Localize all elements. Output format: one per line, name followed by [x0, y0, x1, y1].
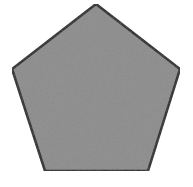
pentagon-diagram	[0, 0, 193, 187]
diagram-canvas	[0, 0, 193, 187]
pentagon-shape	[12, 4, 180, 171]
